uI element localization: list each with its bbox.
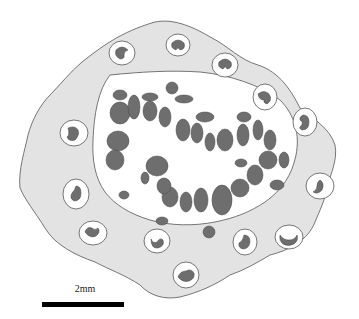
body (157, 178, 171, 194)
body (128, 95, 140, 119)
body (194, 188, 208, 212)
body (176, 119, 190, 141)
body (235, 159, 247, 167)
body (143, 101, 157, 121)
body (259, 151, 277, 169)
body (264, 130, 276, 150)
body (119, 191, 129, 199)
body (159, 107, 171, 127)
peripheral-unit-halo (144, 229, 170, 253)
body (156, 217, 168, 225)
body (110, 102, 130, 124)
body (217, 129, 233, 151)
cross-section-diagram (0, 0, 359, 319)
body (106, 150, 124, 170)
body (146, 156, 168, 176)
body (107, 131, 129, 151)
body (237, 112, 251, 122)
body (253, 120, 263, 140)
body (205, 133, 215, 151)
body (196, 112, 214, 122)
body (247, 165, 263, 185)
scale-label: 2mm (70, 283, 100, 294)
body (113, 90, 127, 100)
body (270, 180, 284, 190)
body (175, 95, 193, 103)
body (279, 152, 289, 168)
body (191, 123, 203, 143)
body (231, 179, 249, 197)
body (142, 93, 158, 101)
body (180, 192, 192, 212)
body (212, 185, 232, 215)
body (237, 124, 249, 146)
body (203, 226, 215, 238)
scale-bar (42, 302, 124, 307)
body (141, 172, 149, 184)
body (166, 82, 178, 94)
